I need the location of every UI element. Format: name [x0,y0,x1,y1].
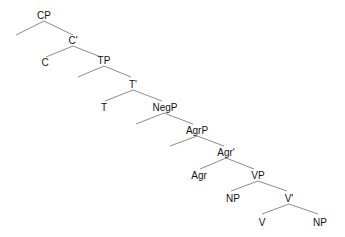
node-tp: TP [98,55,111,66]
node-v: V [259,217,266,228]
node-v-bar: V' [285,193,294,204]
node-t-bar: T' [129,79,137,90]
node-c: C [41,57,48,68]
node-np-comp: NP [313,217,327,228]
node-c-bar: C' [68,35,77,46]
node-t: T [101,102,107,113]
tree-edges [16,21,318,214]
node-cp: CP [37,10,51,21]
node-np-spec: NP [226,193,240,204]
node-agrp: AgrP [186,125,209,136]
node-agr-bar: Agr' [217,147,235,158]
node-agr: Agr [191,170,207,181]
syntax-tree: CP C' C TP T' T NegP AgrP Agr' Agr VP NP… [0,0,345,237]
node-vp: VP [251,170,265,181]
node-negp: NegP [152,102,177,113]
